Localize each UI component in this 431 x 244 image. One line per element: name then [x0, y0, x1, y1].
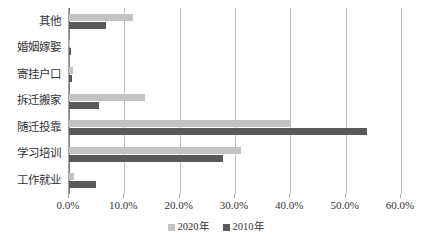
bar-2020-其他[interactable]	[69, 14, 133, 21]
x-tick-50.0%	[345, 194, 346, 198]
bar-2020-拆迁搬家[interactable]	[69, 94, 145, 101]
x-axis-label-6: 60.0%	[386, 199, 414, 211]
bar-2010-学习培训[interactable]	[69, 155, 223, 162]
bar-row	[69, 88, 400, 115]
bar-2010-婚姻嫁娶[interactable]	[69, 48, 71, 55]
y-axis-category-labels: 其他 婚姻嫁娶 寄挂户口 拆迁搬家 随迁投靠 学习培训 工作就业	[0, 8, 64, 194]
bar-row	[69, 35, 400, 62]
x-tick-10.0%	[123, 194, 124, 198]
x-tick-20.0%	[179, 194, 180, 198]
bar-2010-其他[interactable]	[69, 22, 106, 29]
bar-2020-学习培训[interactable]	[69, 147, 241, 154]
x-tick-0.0%	[68, 194, 69, 198]
x-axis-tick-labels: 0.0%10.0%20.0%30.0%40.0%50.0%60.0%	[0, 199, 431, 215]
x-axis-label-2: 20.0%	[164, 199, 192, 211]
bar-2020-工作就业[interactable]	[69, 173, 74, 180]
x-axis-label-4: 40.0%	[275, 199, 303, 211]
x-axis-label-3: 30.0%	[220, 199, 248, 211]
bar-2010-寄挂户口[interactable]	[69, 75, 72, 82]
bar-2010-工作就业[interactable]	[69, 181, 96, 188]
x-tick-40.0%	[289, 194, 290, 198]
chart-legend: 2020年 2010年	[0, 222, 431, 233]
x-axis-label-1: 10.0%	[109, 199, 137, 211]
legend-label-2010: 2010年	[233, 222, 264, 233]
legend-swatch-2020-icon	[168, 224, 175, 231]
bar-2010-拆迁搬家[interactable]	[69, 102, 99, 109]
y-axis-label-2: 寄挂户口	[0, 61, 64, 88]
y-axis-label-1: 婚姻嫁娶	[0, 35, 64, 62]
bar-row	[69, 141, 400, 168]
bar-2010-随迁投靠[interactable]	[69, 128, 367, 135]
y-axis-label-4: 随迁投靠	[0, 114, 64, 141]
x-tick-30.0%	[234, 194, 235, 198]
legend-item-2020[interactable]: 2020年	[168, 222, 209, 233]
x-axis-label-0: 0.0%	[57, 199, 80, 211]
x-tick-60.0%	[400, 194, 401, 198]
legend-item-2010[interactable]: 2010年	[223, 222, 264, 233]
gridline-60.0%	[401, 8, 402, 194]
y-axis-label-5: 学习培训	[0, 141, 64, 168]
legend-label-2020: 2020年	[178, 222, 209, 233]
legend-swatch-2010-icon	[223, 224, 230, 231]
bar-row	[69, 8, 400, 35]
bar-row	[69, 114, 400, 141]
bar-chart: 其他 婚姻嫁娶 寄挂户口 拆迁搬家 随迁投靠 学习培训 工作就业 0.0%10.…	[0, 0, 431, 244]
bar-rows	[69, 8, 400, 194]
bar-2020-随迁投靠[interactable]	[69, 120, 291, 127]
bar-2020-寄挂户口[interactable]	[69, 67, 73, 74]
bar-row	[69, 61, 400, 88]
bar-2020-婚姻嫁娶[interactable]	[69, 40, 70, 47]
plot-area	[68, 8, 400, 194]
y-axis-label-6: 工作就业	[0, 167, 64, 194]
x-axis-label-5: 50.0%	[330, 199, 358, 211]
y-axis-label-3: 拆迁搬家	[0, 88, 64, 115]
bar-row	[69, 167, 400, 194]
y-axis-label-0: 其他	[0, 8, 64, 35]
